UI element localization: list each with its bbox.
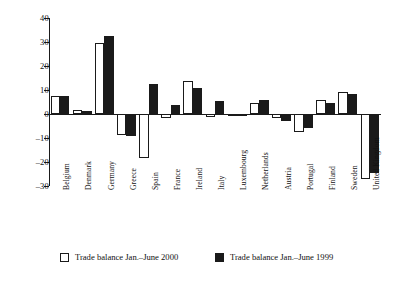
bar-group bbox=[115, 18, 137, 186]
y-tick-label: 40 bbox=[27, 14, 49, 23]
bar bbox=[171, 105, 180, 114]
bar bbox=[206, 114, 215, 117]
x-axis-label-ireland: Ireland bbox=[196, 168, 204, 190]
bar-group bbox=[204, 18, 226, 186]
bar bbox=[338, 92, 347, 114]
bar bbox=[281, 114, 290, 121]
legend-item[interactable]: Trade balance Jan.–June 1999 bbox=[215, 252, 333, 262]
bar-chart: 403020100–10–20–30 BelgiumDenmarkGermany… bbox=[0, 0, 401, 291]
legend-label: Trade balance Jan.–June 1999 bbox=[230, 252, 333, 262]
x-axis-label-sweden: Sweden bbox=[351, 165, 359, 190]
bar-group bbox=[182, 18, 204, 186]
bar-group bbox=[292, 18, 314, 186]
bar bbox=[326, 103, 335, 114]
x-axis-label-greece: Greece bbox=[130, 168, 138, 190]
bar bbox=[250, 103, 259, 114]
bar bbox=[193, 88, 202, 114]
bar-group bbox=[337, 18, 359, 186]
bar bbox=[228, 114, 237, 116]
bar-group bbox=[160, 18, 182, 186]
y-tick-label: 30 bbox=[27, 38, 49, 47]
y-tick-label: 0 bbox=[27, 110, 49, 119]
y-tick-label: 20 bbox=[27, 62, 49, 71]
bar-group bbox=[315, 18, 337, 186]
x-axis-label-italy: Italy bbox=[218, 176, 226, 190]
bar-group bbox=[270, 18, 292, 186]
x-axis-label-denmark: Denmark bbox=[85, 161, 93, 190]
bar bbox=[117, 114, 126, 135]
y-tick-label: –10 bbox=[27, 134, 49, 143]
bar bbox=[82, 111, 91, 114]
legend-item[interactable]: Trade balance Jan.–June 2000 bbox=[60, 252, 178, 262]
bar bbox=[73, 110, 82, 114]
bar bbox=[51, 96, 60, 114]
x-axis-label-netherlands: Netherlands bbox=[262, 152, 270, 190]
x-axis-label-germany: Germany bbox=[108, 161, 116, 190]
x-axis-label-austria: Austria bbox=[285, 167, 293, 190]
x-axis-label-belgium: Belgium bbox=[63, 163, 71, 190]
x-axis-label-portugal: Portugal bbox=[307, 163, 315, 190]
x-axis-label-luxembourg: Luxembourg bbox=[240, 150, 248, 190]
bar bbox=[294, 114, 303, 132]
bar-group bbox=[138, 18, 160, 186]
bar bbox=[183, 81, 192, 114]
x-axis-label-france: France bbox=[174, 169, 182, 190]
bar bbox=[60, 96, 69, 114]
bar bbox=[272, 114, 281, 118]
bar bbox=[361, 114, 370, 179]
x-axis-label-united-kingdom: United Kingdom bbox=[373, 137, 381, 190]
bar bbox=[259, 100, 268, 114]
chart-legend: Trade balance Jan.–June 2000Trade balanc… bbox=[60, 252, 390, 270]
bar bbox=[161, 114, 170, 118]
bar bbox=[104, 36, 113, 114]
legend-label: Trade balance Jan.–June 2000 bbox=[75, 252, 178, 262]
bar bbox=[95, 43, 104, 114]
bar bbox=[304, 114, 313, 128]
y-tick-label: 10 bbox=[27, 86, 49, 95]
bar bbox=[126, 114, 135, 136]
bar-group bbox=[49, 18, 71, 186]
x-axis-label-finland: Finland bbox=[329, 166, 337, 190]
y-tick-label: –20 bbox=[27, 158, 49, 167]
bar bbox=[316, 100, 325, 114]
bar bbox=[237, 114, 246, 116]
x-axis-label-spain: Spain bbox=[152, 172, 160, 190]
bar bbox=[149, 84, 158, 114]
legend-swatch-dark bbox=[215, 253, 224, 262]
bar bbox=[348, 94, 357, 114]
legend-swatch-light bbox=[60, 253, 69, 262]
y-tick-label: –30 bbox=[27, 182, 49, 191]
bar bbox=[215, 101, 224, 114]
bar bbox=[139, 114, 148, 158]
